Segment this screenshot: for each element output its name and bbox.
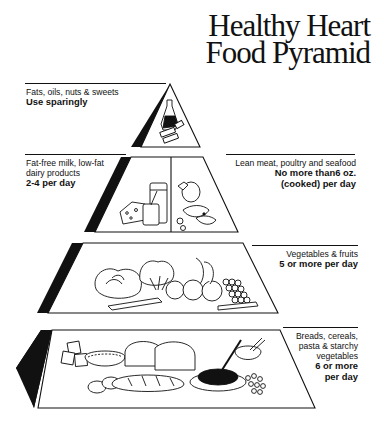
- label-grains-serving-1: 6 or more: [296, 361, 358, 372]
- label-grains-description-1: Breads, cereals,: [296, 331, 358, 341]
- tier-grains: [16, 330, 315, 408]
- label-dairy-description-1: Fat-free milk, low-fat: [26, 158, 104, 168]
- label-grains-serving-2: per day: [296, 372, 358, 383]
- tier-produce: [37, 243, 278, 313]
- label-meat-serving-1: No more than6 oz.: [235, 168, 356, 179]
- label-dairy: Fat-free milk, low-fat dairy products 2-…: [26, 158, 104, 189]
- label-dairy-serving: 2-4 per day: [26, 178, 104, 189]
- tier-dairy-meat: [84, 157, 238, 232]
- label-produce-serving: 5 or more per day: [279, 259, 358, 270]
- label-fats-serving: Use sparingly: [26, 97, 119, 108]
- label-grains-description-2: pasta & starchy: [296, 341, 358, 351]
- label-fats: Fats, oils, nuts & sweets Use sparingly: [26, 87, 119, 108]
- label-grains: Breads, cereals, pasta & starchy vegetab…: [296, 331, 358, 382]
- tier-fats: [131, 84, 200, 147]
- label-produce: Vegetables & fruits 5 or more per day: [279, 249, 358, 270]
- label-meat-serving-2: (cooked) per day: [235, 179, 356, 190]
- label-meat: Lean meat, poultry and seafood No more t…: [235, 158, 356, 189]
